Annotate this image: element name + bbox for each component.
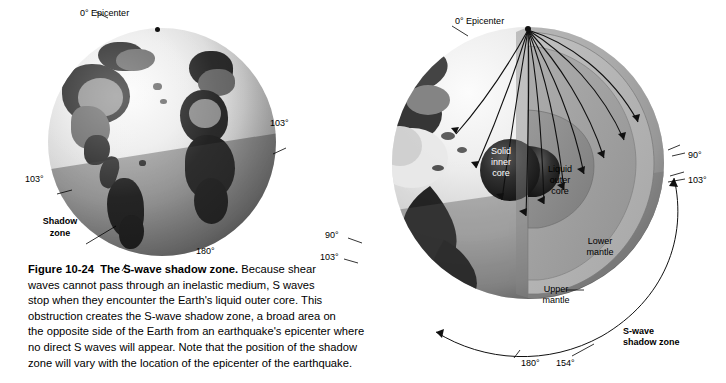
left-globe-leaders: [0, 0, 296, 298]
right-shadow-zone-label-line2: shadow zone: [623, 337, 680, 348]
upper-mantle-label-line1: Upper: [530, 284, 582, 295]
outer-core-label-line2: outer: [536, 175, 584, 186]
upper-mantle-label-line2: mantle: [530, 295, 582, 306]
right-angle-154: 154°: [556, 358, 575, 369]
left-angle-103-left: 103°: [25, 174, 44, 185]
figure-caption: Figure 10-24 The S-wave shadow zone. Bec…: [28, 262, 380, 371]
right-epicenter-label: 0° Epicenter: [455, 16, 504, 27]
outer-core-label-line3: core: [536, 186, 584, 197]
inner-core-label-line2: inner: [478, 157, 524, 168]
lower-mantle-label-line2: mantle: [574, 247, 626, 258]
left-side-angle-90: 90°: [325, 230, 339, 241]
outer-core-label-line1: Liquid: [536, 164, 584, 175]
right-angle-180: 180°: [521, 358, 540, 369]
figure-title: The S-wave shadow zone.: [100, 263, 238, 275]
caption-line-3: obstruction creates the S-wave shadow zo…: [28, 309, 380, 325]
right-shadow-zone-label-line1: S-wave: [623, 326, 654, 337]
caption-line-1: waves cannot pass through an inelastic m…: [28, 278, 380, 294]
left-angle-180-bottom: 180°: [196, 246, 215, 257]
left-shadow-zone-label-line2: zone: [32, 228, 88, 239]
caption-line-4: the opposite side of the Earth from an e…: [28, 324, 380, 340]
left-shadow-zone-label-line1: Shadow: [32, 216, 88, 227]
left-side-angle-103: 103°: [320, 252, 339, 263]
caption-line-0: Because shear: [241, 263, 316, 275]
right-cutaway-globe: Solid inner core Liquid outer core Lower…: [388, 18, 688, 348]
left-epicenter-label: 0° Epicenter: [80, 8, 129, 19]
caption-line-6: zone will vary with the location of the …: [28, 356, 380, 372]
inner-core-label-line3: core: [478, 168, 524, 179]
caption-line-5: no direct S waves will appear. Note that…: [28, 340, 380, 356]
right-angle-103: 103°: [688, 175, 707, 186]
inner-core-label-line1: Solid: [478, 146, 524, 157]
figure-number: Figure 10-24: [28, 263, 94, 275]
caption-line-2: stop when they encounter the Earth's liq…: [28, 293, 380, 309]
figure-canvas: 0° Epicenter 103° 103° 180° Shadow zone: [0, 0, 726, 383]
right-angle-90: 90°: [688, 150, 702, 161]
lower-mantle-label-line1: Lower: [574, 236, 626, 247]
left-angle-103-right: 103°: [270, 118, 289, 129]
